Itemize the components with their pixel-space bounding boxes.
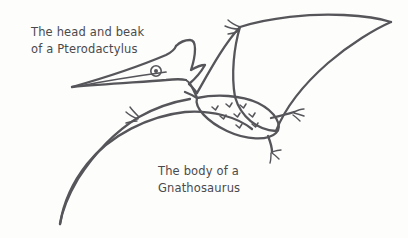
annotation-head-line2: of a Pterodactylus	[31, 41, 144, 58]
right-wing-inner-edge	[233, 27, 276, 131]
lower-foot-claw-icon	[270, 150, 281, 163]
annotation-body-line2: Gnathosaurus	[158, 180, 240, 197]
annotation-body-label: The body of a Gnathosaurus	[158, 163, 240, 197]
left-wing-leading-edge	[60, 99, 190, 224]
annotation-head-label: The head and beak of a Pterodactylus	[31, 24, 144, 58]
sketch-canvas: The head and beak of a Pterodactylus The…	[0, 0, 408, 238]
annotation-body-line1: The body of a	[158, 163, 240, 180]
wing-claw-right-icon	[225, 20, 240, 34]
lower-leg	[268, 136, 272, 152]
annotation-head-line1: The head and beak	[31, 24, 144, 41]
eye-icon	[151, 66, 161, 76]
body-scales	[212, 103, 258, 128]
head-crest	[176, 40, 205, 84]
upper-foot-claw-icon	[293, 109, 304, 121]
